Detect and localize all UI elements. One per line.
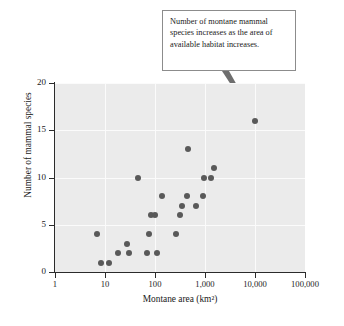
- x-axis-tick-label: 10,000: [243, 279, 267, 289]
- data-point: [135, 175, 141, 181]
- y-axis-tick: [49, 272, 54, 273]
- y-axis-tick: [49, 130, 54, 131]
- data-point: [184, 193, 190, 199]
- data-point: [179, 203, 185, 209]
- x-axis-title-text: Montane area (km²): [143, 294, 218, 304]
- data-point: [126, 250, 132, 256]
- data-point: [173, 231, 179, 237]
- gridline-horizontal: [55, 178, 305, 179]
- data-point: [211, 165, 217, 171]
- gridline-vertical: [255, 83, 256, 272]
- data-point: [152, 212, 158, 218]
- data-point: [154, 250, 160, 256]
- x-axis-tick-label: 100,000: [291, 279, 319, 289]
- x-axis-title: Montane area (km²): [55, 294, 305, 304]
- gridline-vertical: [105, 83, 106, 272]
- gridline-horizontal: [55, 225, 305, 226]
- y-axis-tick: [49, 83, 54, 84]
- annotation-callout: Number of montane mammal species increas…: [162, 10, 296, 71]
- x-axis-tick-label: 1: [53, 279, 57, 289]
- y-axis-tick-label: 10: [37, 172, 46, 182]
- x-axis-tick: [305, 273, 306, 278]
- x-axis-tick: [155, 273, 156, 278]
- scatter-plot-figure: Number of montane mammal species increas…: [0, 0, 344, 326]
- data-point: [106, 260, 112, 266]
- y-axis-tick: [49, 178, 54, 179]
- x-axis-tick-label: 100: [149, 279, 162, 289]
- y-axis-tick: [49, 225, 54, 226]
- y-axis-tick-label: 15: [37, 124, 46, 134]
- data-point: [252, 118, 258, 124]
- data-point: [146, 231, 152, 237]
- x-axis-tick-label: 1,000: [195, 279, 214, 289]
- data-point: [94, 231, 100, 237]
- data-point: [115, 250, 121, 256]
- y-axis-tick-label: 20: [37, 77, 46, 87]
- data-point: [185, 146, 191, 152]
- plot-area: [55, 83, 305, 272]
- x-axis-line: [54, 272, 306, 273]
- data-point: [124, 241, 130, 247]
- y-axis-line: [54, 82, 55, 273]
- data-point: [201, 175, 207, 181]
- gridline-vertical: [155, 83, 156, 272]
- data-point: [144, 250, 150, 256]
- x-axis-tick: [55, 273, 56, 278]
- y-axis-tick-label: 5: [42, 219, 47, 229]
- x-axis-tick: [205, 273, 206, 278]
- x-axis-tick-label: 10: [101, 279, 110, 289]
- y-axis-tick-label: 0: [42, 266, 47, 276]
- annotation-text: Number of montane mammal species increas…: [170, 16, 289, 50]
- data-point: [208, 175, 214, 181]
- x-axis-tick: [255, 273, 256, 278]
- y-axis-title: Number of mammal species: [23, 65, 33, 225]
- data-point: [177, 212, 183, 218]
- data-point: [193, 203, 199, 209]
- data-point: [159, 193, 165, 199]
- gridline-horizontal: [55, 130, 305, 131]
- gridline-horizontal: [55, 83, 305, 84]
- x-axis-tick: [105, 273, 106, 278]
- data-point: [98, 260, 104, 266]
